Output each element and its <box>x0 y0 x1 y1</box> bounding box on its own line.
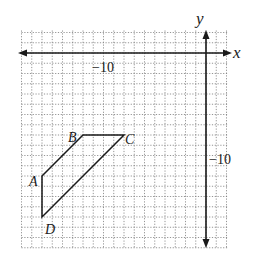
vertex-label-c: C <box>125 132 135 147</box>
x-axis-arrow-left-icon <box>18 50 27 57</box>
vertex-label-b: B <box>68 130 77 145</box>
y-tick-label: −10 <box>209 152 231 167</box>
y-axis-arrow-down-icon <box>203 239 210 248</box>
y-axis-label: y <box>194 9 204 28</box>
x-tick-label: −10 <box>92 60 114 75</box>
vertex-label-d: D <box>44 222 55 237</box>
x-axis-arrow-right-icon <box>223 50 232 57</box>
coordinate-plane: x y −10 −10 A B C D <box>0 0 256 264</box>
y-axis-arrow-up-icon <box>203 30 210 39</box>
vertex-label-a: A <box>28 174 38 189</box>
x-axis-label: x <box>232 43 241 62</box>
